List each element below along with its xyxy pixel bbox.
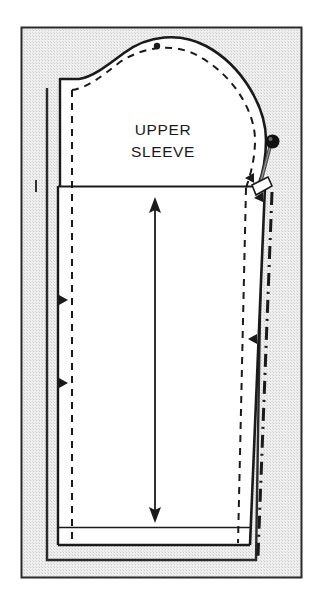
pin-head <box>266 135 280 149</box>
shoulder-dot-icon <box>154 43 160 49</box>
piece-label-line-2: SLEEVE <box>131 143 195 160</box>
upper-sleeve-piece <box>58 37 266 545</box>
piece-label-line-1: UPPER <box>135 121 191 138</box>
piece-paper-fill <box>58 37 266 545</box>
upper-sleeve-pattern-figure: UPPER SLEEVE <box>0 0 325 609</box>
figure-page: UPPER SLEEVE <box>0 0 325 609</box>
pin-head-highlight <box>269 137 273 141</box>
